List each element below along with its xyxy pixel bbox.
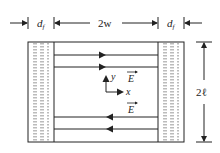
vector-arrow-icon [135, 71, 138, 74]
label-2w: 2w [98, 17, 112, 29]
left-dotted-region [34, 43, 48, 141]
label-y: y [110, 71, 116, 82]
field-lines-lower [54, 114, 158, 133]
label-2l: 2ℓ [196, 86, 207, 98]
label-df-right: df [167, 17, 176, 31]
arrow-right-icon [99, 52, 106, 59]
svg-text:E: E [127, 104, 134, 115]
arrow-left-icon [106, 114, 113, 121]
arrow-left-icon [106, 126, 113, 133]
field-label-lower: E [127, 102, 138, 116]
coordinate-axes: y x [103, 71, 132, 97]
height-dimension: 2ℓ [196, 42, 212, 142]
right-dotted-region [164, 43, 178, 141]
arrow-right-icon [99, 64, 106, 71]
label-x: x [125, 86, 131, 97]
field-label-upper: E [127, 71, 138, 85]
svg-text:E: E [127, 73, 134, 84]
dimension-row: df 2w df [10, 17, 202, 31]
diagram-canvas: df 2w df y [0, 0, 220, 153]
field-lines-upper [54, 52, 158, 71]
y-axis-arrow-icon [103, 75, 110, 82]
vector-arrow-icon [135, 102, 138, 105]
label-df-left: df [37, 17, 46, 31]
x-axis-arrow-icon [117, 89, 124, 96]
